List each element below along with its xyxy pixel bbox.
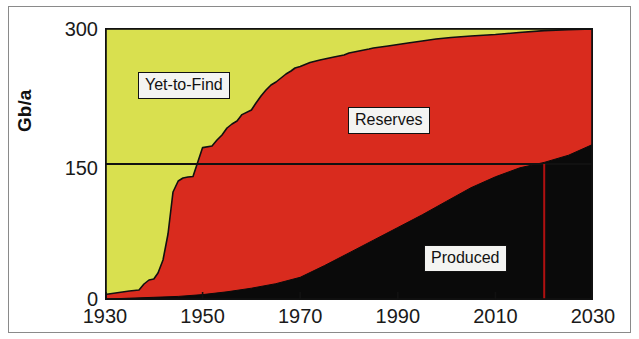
x-axis: 1930 1950 1970 1990 2010 2030 [105,306,605,336]
x-tick-label-2010: 2010 [473,306,518,326]
y-axis: 300 150 0 Gb/a [0,0,98,339]
callout-yet-to-find: Yet-to-Find [138,72,230,99]
callout-produced: Produced [424,245,507,272]
chart-figure: 300 150 0 Gb/a [0,0,639,339]
x-tick-label-1970: 1970 [278,306,323,326]
x-tick-label-1950: 1950 [180,306,225,326]
y-tick-label-150: 150 [65,158,98,178]
plot-area: Yet-to-Find Reserves Produced [105,28,593,300]
stacked-area-plot [105,28,593,300]
y-axis-title: Gb/a [14,90,36,132]
x-tick-label-1990: 1990 [376,306,421,326]
x-tick-label-1930: 1930 [83,306,128,326]
x-tick-label-2030: 2030 [571,306,616,326]
callout-reserves: Reserves [348,107,430,134]
y-tick-label-300: 300 [65,19,98,39]
